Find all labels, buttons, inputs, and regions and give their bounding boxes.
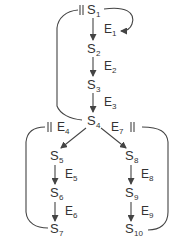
svg-text:E: E — [104, 22, 112, 36]
event-e2: E2 — [104, 59, 117, 75]
svg-text:7: 7 — [59, 229, 64, 238]
svg-text:E: E — [141, 167, 149, 181]
svg-text:S: S — [87, 41, 96, 56]
svg-text:10: 10 — [134, 229, 143, 238]
state-s5: S5 — [50, 148, 64, 165]
event-e3: E3 — [104, 95, 117, 111]
state-s4: S4 — [87, 113, 101, 130]
svg-text:E: E — [104, 95, 112, 109]
svg-text:1: 1 — [96, 10, 101, 19]
event-e6: E6 — [65, 204, 78, 220]
state-s9: S9 — [125, 185, 139, 202]
svg-text:S: S — [50, 185, 59, 200]
svg-text:8: 8 — [149, 174, 154, 183]
svg-text:S: S — [125, 221, 134, 236]
return-loop-s4-s1 — [57, 10, 82, 120]
state-s1: S1 — [87, 2, 101, 19]
svg-text:5: 5 — [59, 156, 64, 165]
state-diagram: S1 S2 S3 S4 S5 S6 S7 S8 S9 S10 E1 E2 E3 … — [0, 0, 179, 251]
svg-text:7: 7 — [119, 127, 124, 136]
svg-text:S: S — [87, 2, 96, 17]
svg-text:3: 3 — [96, 85, 101, 94]
svg-text:E: E — [141, 204, 149, 218]
svg-text:6: 6 — [59, 193, 64, 202]
svg-text:6: 6 — [73, 211, 78, 220]
return-loop-s7-e4 — [26, 127, 48, 228]
svg-text:E: E — [65, 204, 73, 218]
event-e7: E7 — [111, 120, 124, 136]
svg-text:E: E — [104, 59, 112, 73]
event-e9: E9 — [141, 204, 154, 220]
event-e5: E5 — [65, 167, 78, 183]
event-e8: E8 — [141, 167, 154, 183]
svg-text:3: 3 — [112, 102, 117, 111]
state-s7: S7 — [50, 221, 64, 238]
svg-text:4: 4 — [96, 121, 101, 130]
svg-text:4: 4 — [65, 127, 70, 136]
state-s8: S8 — [125, 148, 139, 165]
svg-text:9: 9 — [149, 211, 154, 220]
event-e4: E4 — [57, 120, 70, 136]
svg-text:S: S — [125, 148, 134, 163]
svg-text:2: 2 — [112, 66, 117, 75]
state-s2: S2 — [87, 41, 101, 58]
state-s10: S10 — [125, 221, 143, 238]
svg-text:S: S — [125, 185, 134, 200]
svg-text:8: 8 — [134, 156, 139, 165]
event-e1: E1 — [104, 22, 117, 38]
svg-text:E: E — [57, 120, 65, 134]
svg-text:E: E — [65, 167, 73, 181]
svg-text:S: S — [87, 77, 96, 92]
svg-text:S: S — [87, 113, 96, 128]
svg-text:1: 1 — [112, 29, 117, 38]
svg-text:2: 2 — [96, 49, 101, 58]
svg-text:9: 9 — [134, 193, 139, 202]
state-s3: S3 — [87, 77, 101, 94]
svg-text:5: 5 — [73, 174, 78, 183]
svg-text:S: S — [50, 148, 59, 163]
svg-text:S: S — [50, 221, 59, 236]
svg-text:E: E — [111, 120, 119, 134]
state-s6: S6 — [50, 185, 64, 202]
